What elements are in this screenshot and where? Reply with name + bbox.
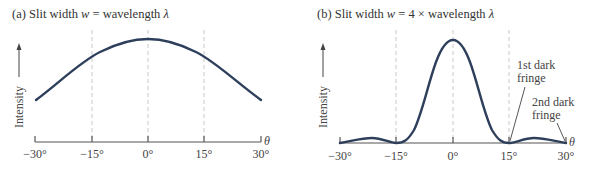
- arrow-head-icon: [17, 43, 22, 50]
- svg-text:−15°: −15°: [80, 147, 104, 161]
- svg-text:0°: 0°: [448, 149, 459, 163]
- arrow-head-icon: [321, 43, 326, 50]
- svg-text:30°: 30°: [253, 147, 270, 161]
- x-axis: [35, 136, 261, 142]
- diffraction-charts: Intensity θ −30° −15° 0° 15° 30°: [0, 0, 594, 178]
- pointer-line: [557, 123, 565, 141]
- svg-text:0°: 0°: [143, 147, 154, 161]
- svg-text:Intensity: Intensity: [12, 86, 26, 128]
- y-axis-label: Intensity: [12, 43, 26, 128]
- y-axis-label: Intensity: [316, 43, 330, 128]
- svg-text:−30°: −30°: [328, 149, 352, 163]
- pointer-line: [510, 87, 525, 141]
- intensity-curve-b: [340, 40, 566, 143]
- svg-text:15°: 15°: [501, 149, 518, 163]
- svg-text:Intensity: Intensity: [316, 86, 330, 128]
- annotation-2nd-dark-fringe: 2nd dark fringe: [532, 95, 574, 141]
- intensity-curve-a: [36, 39, 261, 100]
- svg-text:15°: 15°: [196, 147, 213, 161]
- svg-text:2nd dark: 2nd dark: [532, 95, 574, 109]
- svg-text:1st dark: 1st dark: [517, 58, 555, 72]
- x-tick-labels: −30° −15° 0° 15° 30°: [23, 147, 269, 161]
- theta-label: θ: [264, 134, 270, 148]
- svg-text:30°: 30°: [558, 149, 575, 163]
- svg-text:−15°: −15°: [384, 149, 408, 163]
- x-tick-labels: −30° −15° 0° 15° 30°: [328, 149, 574, 163]
- panel-b-chart: Intensity θ −30° −15° 0° 15° 30° 1st dar…: [316, 30, 575, 163]
- svg-text:−30°: −30°: [23, 147, 47, 161]
- svg-text:fringe: fringe: [517, 71, 546, 85]
- gridlines: [396, 30, 509, 143]
- svg-text:fringe: fringe: [532, 108, 561, 122]
- panel-a-chart: Intensity θ −30° −15° 0° 15° 30°: [12, 30, 270, 161]
- theta-label: θ: [569, 135, 575, 149]
